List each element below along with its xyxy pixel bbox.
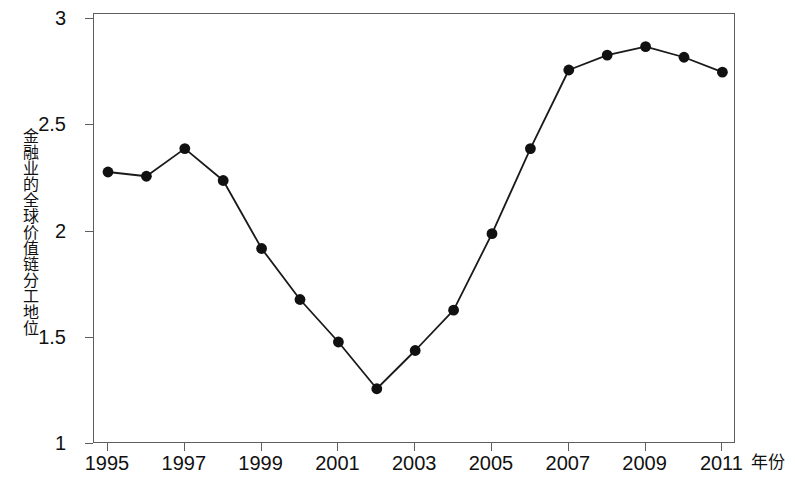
data-point xyxy=(525,143,536,154)
y-tick-label-wrap: 3 xyxy=(0,8,80,28)
data-point xyxy=(563,65,574,76)
data-point xyxy=(179,143,190,154)
data-point xyxy=(410,345,421,356)
y-tick-label: 1 xyxy=(55,433,66,453)
data-point xyxy=(141,171,152,182)
data-point xyxy=(679,52,690,63)
data-point xyxy=(602,50,613,61)
y-tick-label: 2.5 xyxy=(38,114,66,134)
data-point xyxy=(487,228,498,239)
y-tick-mark xyxy=(85,231,93,232)
y-tick-label-wrap: 2 xyxy=(0,221,80,241)
data-point xyxy=(103,167,114,178)
plot-area xyxy=(93,13,735,443)
data-point xyxy=(371,383,382,394)
x-tick-label: 2009 xyxy=(605,453,685,473)
chart-figure: 金融业的全球价值链分工地位 11.522.53 1995199719992001… xyxy=(0,0,795,478)
y-tick-label: 3 xyxy=(55,8,66,28)
x-tick-label: 2011 xyxy=(681,453,761,473)
y-tick-mark xyxy=(85,124,93,125)
x-tick-mark xyxy=(645,443,646,451)
x-tick-mark xyxy=(184,443,185,451)
y-tick-mark xyxy=(85,337,93,338)
data-point xyxy=(640,41,651,52)
y-tick-mark xyxy=(85,18,93,19)
data-point xyxy=(448,305,459,316)
y-tick-mark xyxy=(85,443,93,444)
data-point xyxy=(295,294,306,305)
y-tick-label-wrap: 2.5 xyxy=(0,114,80,134)
x-tick-mark xyxy=(568,443,569,451)
series-line xyxy=(108,47,722,389)
series-markers xyxy=(103,41,728,394)
x-axis-title: 年份 xyxy=(751,453,785,473)
x-tick-mark xyxy=(721,443,722,451)
data-point xyxy=(256,243,267,254)
x-tick-mark xyxy=(414,443,415,451)
data-point xyxy=(717,67,728,78)
y-tick-label: 1.5 xyxy=(38,327,66,347)
x-tick-label: 1997 xyxy=(144,453,224,473)
y-tick-label-wrap: 1.5 xyxy=(0,327,80,347)
x-tick-label: 2005 xyxy=(451,453,531,473)
y-tick-label-wrap: 1 xyxy=(0,433,80,453)
data-point xyxy=(218,175,229,186)
x-tick-mark xyxy=(491,443,492,451)
x-tick-label: 1995 xyxy=(67,453,147,473)
x-tick-label: 2001 xyxy=(297,453,377,473)
x-tick-mark xyxy=(261,443,262,451)
y-tick-label: 2 xyxy=(55,221,66,241)
data-point xyxy=(333,337,344,348)
x-tick-mark xyxy=(107,443,108,451)
x-tick-mark xyxy=(337,443,338,451)
x-tick-label: 2007 xyxy=(528,453,608,473)
x-tick-label: 1999 xyxy=(221,453,301,473)
x-tick-label: 2003 xyxy=(374,453,454,473)
line-series-layer xyxy=(94,14,736,444)
